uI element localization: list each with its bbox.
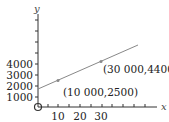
chart: y x 1000 2000 3000 4000 10 20 30 (10 000… (0, 0, 169, 122)
y-tick-label: 1000 (6, 91, 33, 103)
point-annotation-1: (10 000,2500) (63, 86, 138, 98)
x-tick-label: 20 (73, 110, 86, 122)
x-axis-label: x (161, 101, 167, 112)
x-tick-label: 10 (51, 110, 64, 122)
data-point-1 (57, 79, 60, 82)
x-tick-label: 30 (94, 110, 107, 122)
y-tick-label: 3000 (6, 69, 33, 81)
y-tick-label: 2000 (6, 80, 33, 92)
y-axis-label: y (33, 3, 40, 14)
point-annotation-2: (30 000,4400) (103, 63, 169, 75)
y-tick-label: 4000 (6, 58, 33, 70)
